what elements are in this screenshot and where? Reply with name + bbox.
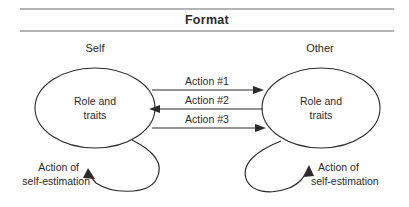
self-loop-label-right-line2: self-estimation	[311, 175, 379, 187]
node-other-label-line2: traits	[310, 109, 333, 121]
column-heading-self: Self	[86, 42, 106, 54]
node-self-label-line2: traits	[84, 109, 107, 121]
page-title: Format	[185, 13, 230, 27]
flow-label-action-3: Action #3	[185, 113, 229, 125]
self-loop-path-right	[245, 141, 306, 192]
flow-arrowhead-action-1	[253, 86, 264, 94]
node-self-ellipse	[35, 68, 155, 148]
format-diagram-figure: Format Self Other Role and traits Role a…	[0, 0, 409, 207]
self-loop-label-left-line1: Action of	[38, 161, 79, 173]
diagram-canvas: Format Self Other Role and traits Role a…	[0, 0, 409, 207]
column-heading-other: Other	[306, 42, 334, 54]
flow-arrowhead-action-3	[255, 124, 266, 132]
node-self-label-line1: Role and	[74, 95, 116, 107]
flow-label-action-2: Action #2	[185, 94, 229, 106]
self-loop-label-right-line1: Action of	[318, 161, 359, 173]
flow-label-action-1: Action #1	[185, 75, 229, 87]
node-other-label-line1: Role and	[300, 95, 342, 107]
node-other-ellipse	[262, 68, 380, 148]
self-loop-label-left-line2: self-estimation	[22, 175, 90, 187]
